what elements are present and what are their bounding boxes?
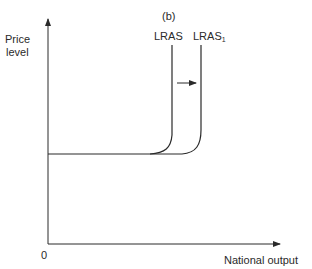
x-axis-label: National output	[224, 254, 298, 266]
origin-label: 0	[41, 249, 47, 261]
lras-label: LRAS	[154, 30, 183, 42]
lras1-label: LRAS1	[193, 30, 226, 46]
y-axis-label-line2: level	[6, 46, 29, 58]
panel-label: (b)	[162, 10, 175, 22]
lras1-curve	[150, 45, 201, 154]
lras-curve	[48, 45, 172, 154]
y-axis-label-line1: Price	[5, 33, 30, 45]
lras1-label-text: LRAS	[193, 30, 222, 42]
lras1-subscript: 1	[222, 36, 226, 43]
